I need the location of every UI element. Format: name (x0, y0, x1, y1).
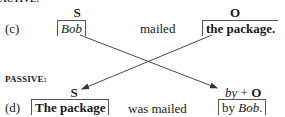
passive-subject-text: The package (35, 100, 105, 115)
passive-agent-by: by (222, 100, 238, 115)
passive-agent-tag-plus: + (237, 85, 251, 100)
passive-verb: was mailed (128, 101, 187, 117)
passive-section-label: PASSIVE: (5, 74, 47, 84)
passive-agent-text: Bob (238, 100, 259, 115)
passive-row-label: (d) (5, 100, 20, 116)
passive-agent-box: by Bob. (218, 99, 266, 115)
passive-agent-tag-o: O (251, 85, 261, 100)
passive-agent-tag-by: by (225, 85, 237, 100)
passive-subject-box: The package (31, 99, 109, 115)
passive-agent-punct: . (259, 100, 262, 115)
